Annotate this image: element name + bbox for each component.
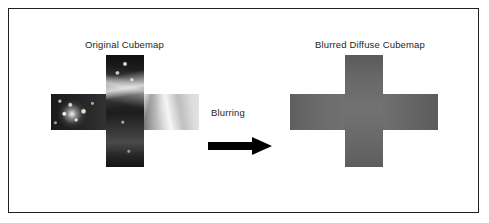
original-cubemap-image bbox=[51, 55, 199, 167]
blurred-cubemap-caption: Blurred Diffuse Cubemap bbox=[315, 39, 425, 50]
arrow-right-icon bbox=[208, 137, 272, 155]
original-cubemap-caption: Original Cubemap bbox=[85, 39, 164, 50]
arrow-label: Blurring bbox=[211, 107, 245, 118]
cubemap-vertical-band bbox=[345, 55, 383, 167]
cubemap-vertical-band bbox=[106, 55, 144, 167]
blurred-diffuse-cubemap-image bbox=[290, 55, 438, 167]
figure-panel: Original Cubemap Blurred Diffuse Cubemap… bbox=[8, 8, 479, 213]
